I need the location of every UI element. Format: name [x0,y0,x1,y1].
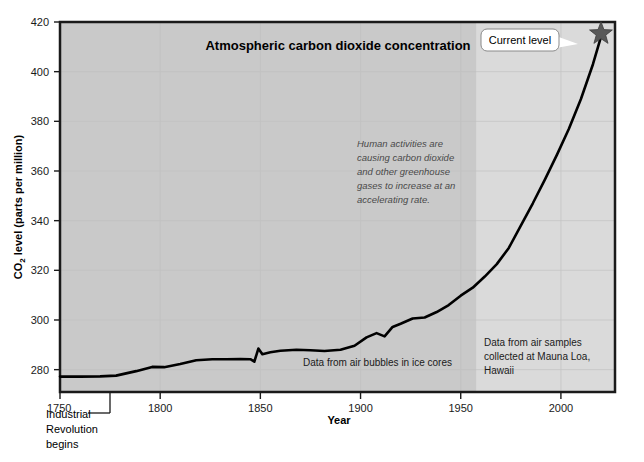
annotation-line: Human activities are [357,138,443,149]
callout-label: Current level [489,34,551,46]
y-tick-label: 420 [31,16,49,28]
x-tick-label: 1900 [348,402,372,414]
y-tick-label: 300 [31,314,49,326]
annotation-line: accelerating rate. [357,194,430,205]
y-axis-title-rest: level (parts per million) [12,134,24,255]
y-tick-label: 280 [31,364,49,376]
annotation-line: Data from air samples [484,337,582,348]
plot-background-ice-core-era [60,22,477,392]
chart-title: Atmospheric carbon dioxide concentration [205,38,470,53]
y-tick-label: 320 [31,264,49,276]
y-tick-label: 400 [31,66,49,78]
annotation-line: causing carbon dioxide [357,152,454,163]
annotation-line: Hawaii [484,365,514,376]
annotation-line: begins [46,438,79,450]
annotation-line: Industrial [46,408,91,420]
annotation-line: Data from air bubbles in ice cores [303,357,452,368]
annotation-line: Revolution [46,423,98,435]
annotation-line: gases to increase at an [357,180,455,191]
x-tick-label: 2000 [549,402,573,414]
annotation-line: and other greenhouse [357,166,450,177]
y-axis-title-prefix: CO [12,262,24,279]
x-axis-title: Year [327,414,351,426]
y-tick-label: 360 [31,165,49,177]
ice-core-source-label: Data from air bubbles in ice cores [303,357,452,368]
annotation-line: collected at Mauna Loa, [484,351,590,362]
x-tick-label: 1850 [248,402,272,414]
co2-concentration-chart: 280300320340360380400420 175018001850190… [0,0,644,462]
x-tick-label: 1800 [148,402,172,414]
chart-canvas: 280300320340360380400420 175018001850190… [0,0,644,462]
x-tick-label: 1950 [448,402,472,414]
y-tick-label: 340 [31,215,49,227]
y-tick-label: 380 [31,115,49,127]
